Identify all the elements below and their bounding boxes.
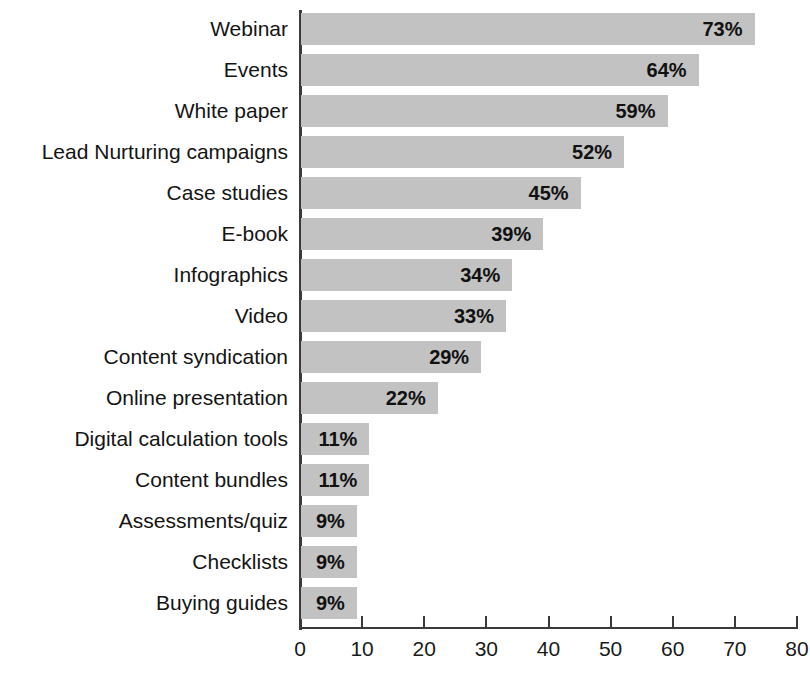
bar-row: Content syndication29%	[0, 341, 810, 373]
bar-row: Case studies45%	[0, 177, 810, 209]
plot-area: 01020304050607080 Webinar73%Events64%Whi…	[0, 0, 810, 677]
bar-row: Checklists9%	[0, 546, 810, 578]
bar	[301, 13, 755, 45]
x-axis-tick-label: 0	[294, 637, 306, 661]
category-label: E-book	[221, 218, 288, 250]
x-axis-tick-label: 30	[475, 637, 498, 661]
bar-value-label: 29%	[429, 341, 469, 373]
bar-value-label: 34%	[460, 259, 500, 291]
bar-row: Lead Nurturing campaigns52%	[0, 136, 810, 168]
bar-value-label: 59%	[616, 95, 656, 127]
bar-row: Infographics34%	[0, 259, 810, 291]
bar-row: White paper59%	[0, 95, 810, 127]
bar-row: Buying guides9%	[0, 587, 810, 619]
bar-row: Content bundles11%	[0, 464, 810, 496]
x-axis-tick-label: 50	[599, 637, 622, 661]
bar-row: Digital calculation tools11%	[0, 423, 810, 455]
category-label: Assessments/quiz	[119, 505, 288, 537]
category-label: Content bundles	[135, 464, 288, 496]
bar-value-label: 9%	[316, 587, 345, 619]
bar-value-label: 45%	[529, 177, 569, 209]
bar-row: Events64%	[0, 54, 810, 86]
category-label: Infographics	[174, 259, 288, 291]
x-axis-tick-label: 80	[785, 637, 808, 661]
category-label: Online presentation	[106, 382, 288, 414]
bar	[301, 54, 699, 86]
x-axis-tick-label: 60	[661, 637, 684, 661]
bar-row: Assessments/quiz9%	[0, 505, 810, 537]
bar-row: E-book39%	[0, 218, 810, 250]
bar-row: Webinar73%	[0, 13, 810, 45]
bar-value-label: 73%	[702, 13, 742, 45]
category-label: White paper	[175, 95, 288, 127]
bar-value-label: 52%	[572, 136, 612, 168]
category-label: Webinar	[210, 13, 288, 45]
bar-row: Online presentation22%	[0, 382, 810, 414]
x-axis-tick-label: 10	[350, 637, 373, 661]
bar-chart: 01020304050607080 Webinar73%Events64%Whi…	[0, 0, 810, 677]
bar-value-label: 22%	[386, 382, 426, 414]
category-label: Digital calculation tools	[74, 423, 288, 455]
bar-value-label: 9%	[316, 546, 345, 578]
bar-value-label: 11%	[318, 423, 357, 455]
bar-row: Video33%	[0, 300, 810, 332]
x-axis-tick-label: 70	[723, 637, 746, 661]
category-label: Case studies	[167, 177, 288, 209]
category-label: Buying guides	[156, 587, 288, 619]
category-label: Events	[224, 54, 288, 86]
category-label: Lead Nurturing campaigns	[42, 136, 288, 168]
bar-value-label: 11%	[318, 464, 357, 496]
category-label: Checklists	[192, 546, 288, 578]
bar-value-label: 64%	[647, 54, 687, 86]
x-axis-tick-label: 20	[413, 637, 436, 661]
x-axis-tick-label: 40	[537, 637, 560, 661]
bar-value-label: 9%	[316, 505, 345, 537]
category-label: Content syndication	[104, 341, 288, 373]
bar-value-label: 39%	[491, 218, 531, 250]
bar	[301, 95, 668, 127]
bar-value-label: 33%	[454, 300, 494, 332]
category-label: Video	[235, 300, 288, 332]
